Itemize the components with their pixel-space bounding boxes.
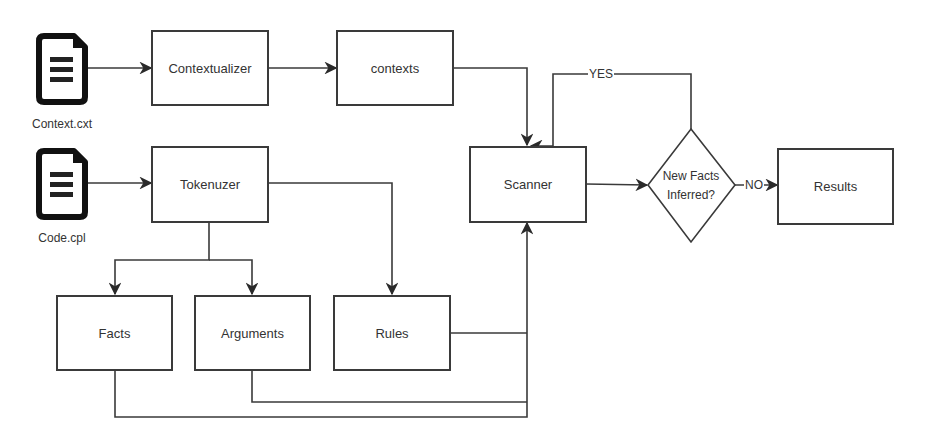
results-node[interactable]: Results (777, 148, 894, 225)
yes-edge-label: YES (588, 67, 614, 81)
decision-node-label: New Facts Inferred? (646, 167, 736, 205)
contextualizer-node[interactable]: Contextualizer (151, 30, 269, 106)
context-file-icon[interactable] (36, 33, 88, 105)
rules-node[interactable]: Rules (333, 295, 451, 371)
context-file-label: Context.cxt (20, 117, 104, 131)
decision-label-line2: Inferred? (646, 186, 736, 205)
no-edge-label: NO (744, 178, 764, 192)
tokenizer-node[interactable]: Tokenuzer (151, 146, 269, 223)
facts-node[interactable]: Facts (56, 295, 173, 371)
arguments-node[interactable]: Arguments (194, 295, 311, 371)
scanner-node[interactable]: Scanner (469, 146, 587, 223)
contexts-node[interactable]: contexts (336, 30, 454, 106)
flowchart-canvas: Context.cxt Code.cpl Contextualizer cont… (0, 0, 927, 445)
document-icon (36, 33, 88, 105)
document-icon (36, 148, 88, 220)
code-file-label: Code.cpl (20, 231, 104, 245)
decision-label-line1: New Facts (646, 167, 736, 186)
code-file-icon[interactable] (36, 148, 88, 220)
